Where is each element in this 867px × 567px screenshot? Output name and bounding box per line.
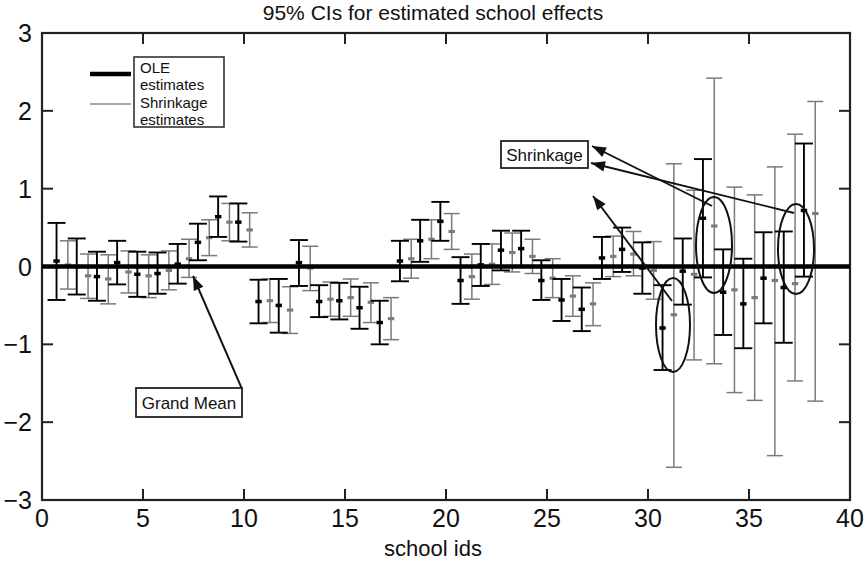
legend-label-ole-2: estimates [140,76,204,93]
y-tick-label: 0 [18,253,32,281]
y-tick-label: 3 [18,19,32,47]
shrinkage-arrow-1-head [591,161,606,171]
x-tick-label: 30 [634,504,662,532]
x-tick-label: 10 [230,504,258,532]
x-tick-label: 5 [136,504,150,532]
y-tick-label: −1 [3,330,32,358]
x-tick-label: 35 [735,504,763,532]
y-tick-label: −2 [3,408,32,436]
x-tick-label: 0 [35,504,49,532]
x-tick-label: 25 [533,504,561,532]
legend-label-ole-1: OLE [140,59,170,76]
grand-mean-label: Grand Mean [142,394,237,413]
x-axis-label: school ids [384,536,482,561]
shrinkage-arrow-1 [591,163,794,213]
y-tick-label: 2 [18,97,32,125]
annotation-shrinkage: Shrinkage [501,141,588,168]
grand-mean-arrow [193,276,242,389]
shrinkage-arrow-2-head [592,146,607,157]
shrinkage-arrow-3-head [593,196,606,210]
y-tick-label: 1 [18,175,32,203]
y-tick-label: −3 [3,486,32,514]
shrinkage-highlight-31 [656,278,690,372]
x-tick-label: 15 [331,504,359,532]
legend-label-shrinkage-2: estimates [140,111,204,128]
x-tick-label: 20 [432,504,460,532]
chart-root: 95% CIs for estimated school effects −3−… [0,0,867,567]
annotation-grand-mean: Grand Mean [136,388,242,417]
legend-label-shrinkage-1: Shrinkage [140,94,208,111]
shrinkage-label: Shrinkage [506,146,583,165]
series-ole-estimates [48,144,813,370]
school-effects-ci-chart: 95% CIs for estimated school effects −3−… [0,0,867,567]
x-tick-label: 40 [836,504,864,532]
shrinkage-arrow-2 [592,146,712,206]
grand-mean-arrow-head [193,276,203,291]
chart-title: 95% CIs for estimated school effects [263,1,603,24]
shrinkage-arrow-3 [593,196,672,301]
legend: OLE estimates Shrinkage estimates [90,57,224,128]
